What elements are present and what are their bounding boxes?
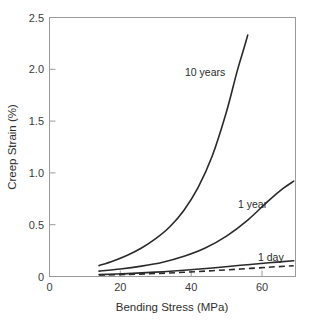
chart-svg: 2.5 2.0 1.5 1.0 0.5 0 0 20 40 60 Bending… (0, 0, 309, 327)
x-tick-label: 60 (256, 281, 268, 293)
y-tick-label: 2.0 (29, 63, 44, 75)
y-tick-label: 2.5 (29, 12, 44, 24)
chart-background (0, 0, 309, 327)
series-label-1-day: 1 day (258, 251, 284, 263)
y-axis-title: Creep Strain (%) (6, 104, 18, 190)
x-tick-label: 0 (46, 281, 52, 293)
x-tick-label: 40 (185, 281, 197, 293)
y-tick-label: 1.0 (29, 167, 44, 179)
x-tick-label: 20 (114, 281, 126, 293)
y-tick-label: 1.5 (29, 115, 44, 127)
y-tick-label: 0 (38, 271, 44, 283)
creep-strain-chart: 2.5 2.0 1.5 1.0 0.5 0 0 20 40 60 Bending… (0, 0, 309, 327)
series-label-10-years: 10 years (185, 66, 225, 78)
y-tick-label: 0.5 (29, 219, 44, 231)
series-label-1-year: 1 year (238, 198, 268, 210)
x-axis-title: Bending Stress (MPa) (116, 301, 229, 313)
